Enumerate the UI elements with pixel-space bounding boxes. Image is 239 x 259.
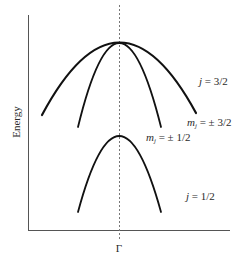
j-1-2-value: = 1/2 (189, 190, 215, 202)
m-symbol: m (187, 116, 195, 128)
m-symbol: m (146, 131, 154, 143)
j-1-2-label: j = 1/2 (186, 190, 215, 202)
j-3-2-label: j = 3/2 (199, 75, 228, 87)
gamma-point-label: Γ (116, 242, 122, 254)
y-axis-label: Energy (10, 106, 22, 138)
j-3-2-value: = 3/2 (202, 75, 228, 87)
mj-1-2-label: mj = ± 1/2 (146, 131, 190, 147)
mj-3-2-label: mj = ± 3/2 (187, 116, 231, 132)
mj-3-2-value: = ± 3/2 (197, 116, 232, 128)
mj-1-2-value: = ± 1/2 (156, 131, 191, 143)
